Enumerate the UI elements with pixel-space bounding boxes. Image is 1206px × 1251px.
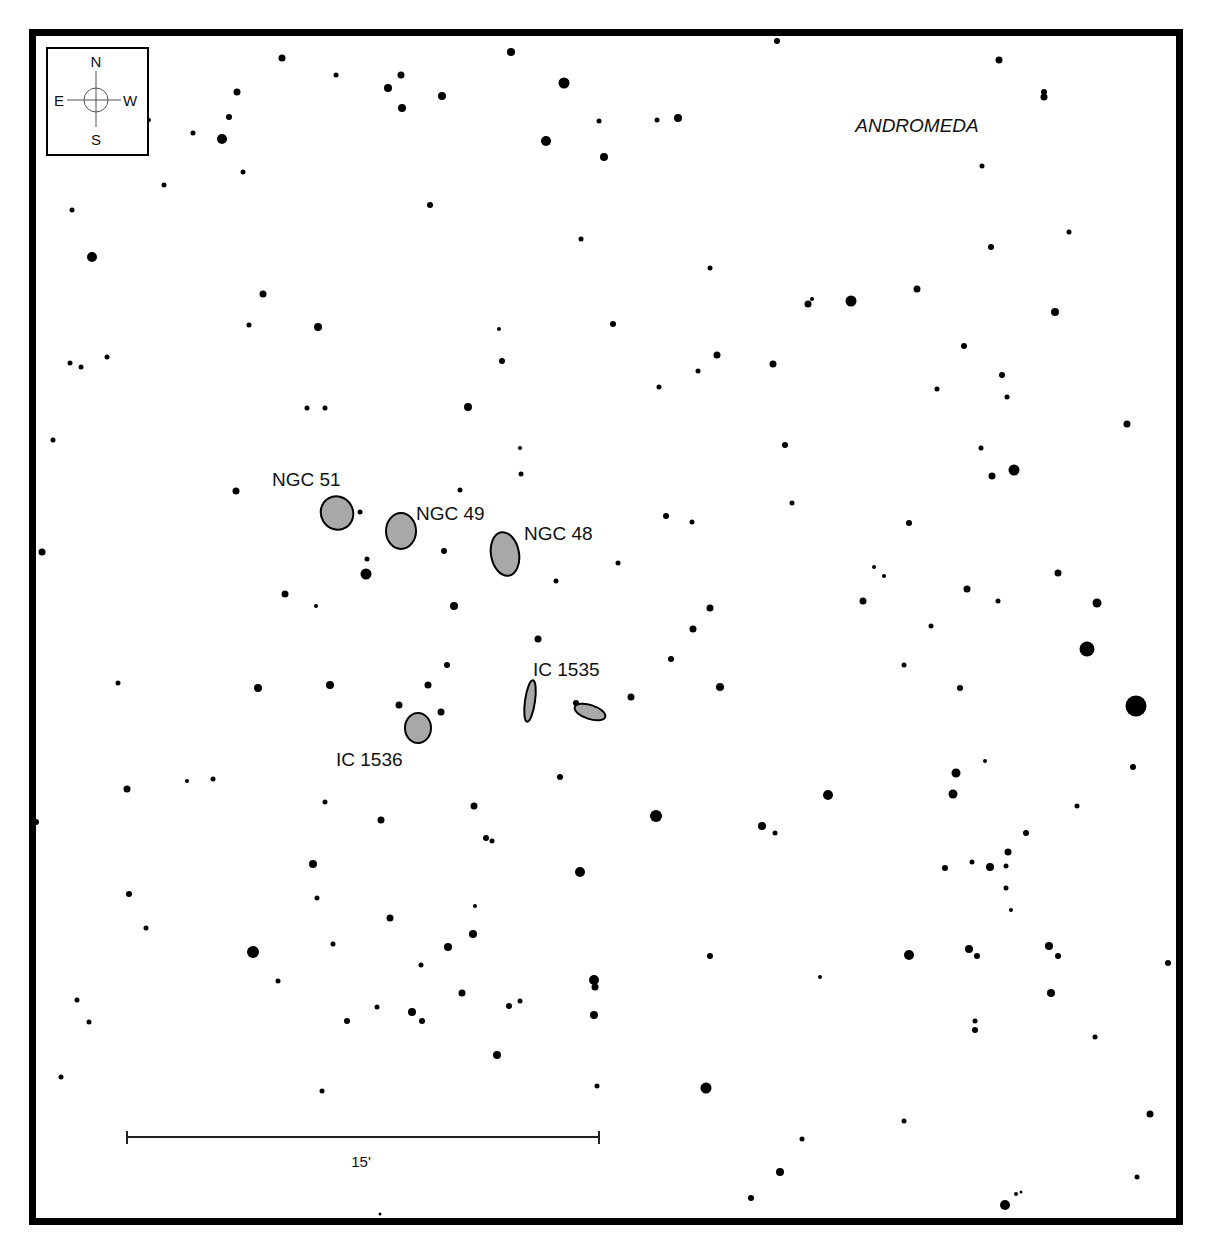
star (344, 1018, 350, 1024)
star (1147, 1111, 1154, 1118)
star (124, 786, 131, 793)
star (988, 244, 994, 250)
star (247, 323, 252, 328)
star (1135, 1175, 1140, 1180)
star (398, 72, 405, 79)
star (541, 136, 551, 146)
star (701, 1083, 712, 1094)
star (1000, 1200, 1010, 1210)
star (241, 170, 246, 175)
star (974, 953, 980, 959)
star (980, 164, 985, 169)
star (419, 963, 424, 968)
star (748, 1195, 754, 1201)
star (499, 358, 505, 364)
star (935, 387, 940, 392)
star (964, 586, 971, 593)
star (315, 896, 320, 901)
star (398, 104, 406, 112)
star (882, 574, 886, 578)
star (590, 1011, 598, 1019)
star (986, 863, 994, 871)
star (375, 1005, 380, 1010)
star-chart: N S E W ANDROMEDA NGC 51 NGC 49 NGC 48 I… (0, 0, 1206, 1251)
star (126, 891, 132, 897)
star (1020, 1191, 1023, 1194)
star (226, 114, 232, 120)
star (979, 446, 984, 451)
star (770, 361, 777, 368)
star (309, 860, 317, 868)
star (233, 488, 240, 495)
star (996, 57, 1003, 64)
star (800, 1137, 805, 1142)
star (970, 860, 975, 865)
star (427, 202, 433, 208)
star (384, 84, 392, 92)
star (68, 361, 73, 366)
compass-south: S (91, 131, 101, 148)
star (378, 817, 385, 824)
star (408, 1008, 416, 1016)
star (116, 681, 121, 686)
star (575, 867, 585, 877)
star (805, 301, 812, 308)
star (554, 579, 559, 584)
star (860, 598, 867, 605)
star (914, 286, 921, 293)
star (1023, 830, 1029, 836)
star (185, 779, 189, 783)
star (191, 131, 196, 136)
star (1093, 1035, 1098, 1040)
star (972, 1027, 978, 1033)
star (334, 73, 339, 78)
constellation-label: ANDROMEDA (854, 115, 979, 136)
star (589, 975, 599, 985)
star (1045, 942, 1053, 950)
star (774, 38, 780, 44)
star (518, 446, 522, 450)
star (996, 599, 1001, 604)
star (305, 406, 310, 411)
star (1041, 94, 1048, 101)
star (1047, 989, 1055, 997)
compass-east: E (54, 92, 64, 109)
star (519, 472, 524, 477)
star (1126, 696, 1147, 717)
star (961, 343, 967, 349)
star (902, 663, 907, 668)
star (1004, 864, 1009, 869)
star (490, 839, 495, 844)
star (425, 682, 432, 689)
star (260, 291, 267, 298)
star (473, 904, 477, 908)
star (387, 915, 394, 922)
star (361, 569, 372, 580)
star (628, 694, 635, 701)
star (75, 998, 80, 1003)
star (823, 790, 833, 800)
star (493, 1051, 501, 1059)
star (790, 501, 795, 506)
star (441, 548, 447, 554)
star (1004, 886, 1009, 891)
star (247, 946, 259, 958)
star (162, 183, 167, 188)
star (396, 702, 403, 709)
star (690, 626, 697, 633)
star (714, 352, 721, 359)
star (444, 662, 450, 668)
label-ic-1536: IC 1536 (336, 749, 403, 770)
star (616, 561, 621, 566)
star (557, 774, 563, 780)
star (707, 953, 713, 959)
star (254, 684, 262, 692)
star (1165, 960, 1171, 966)
star (1093, 599, 1102, 608)
star (450, 602, 458, 610)
star (595, 1084, 600, 1089)
star (674, 114, 682, 122)
star (1067, 230, 1072, 235)
star (1055, 570, 1062, 577)
star (323, 800, 328, 805)
